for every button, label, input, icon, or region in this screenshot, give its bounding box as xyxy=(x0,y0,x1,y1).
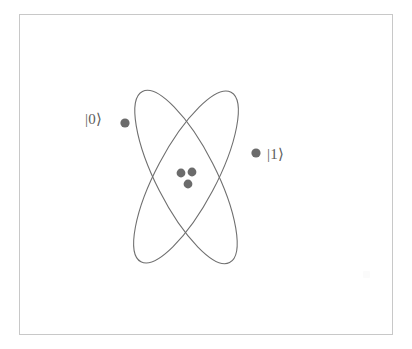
electron-dot-ket0 xyxy=(120,118,129,127)
figure-root: |0⟩ |1⟩ xyxy=(0,0,412,349)
nucleus-dot-2 xyxy=(188,168,197,177)
orbital-ellipse-left xyxy=(116,78,257,276)
nucleus-dot-1 xyxy=(177,169,186,178)
electron-dot-ket1 xyxy=(251,148,260,157)
nucleus-dot-3 xyxy=(184,180,193,189)
ket-zero-label: |0⟩ xyxy=(85,110,102,128)
faint-artifact-mark xyxy=(363,271,370,278)
ket-one-label: |1⟩ xyxy=(267,145,284,163)
orbital-diagram-svg xyxy=(0,0,412,349)
nucleus-dots-group xyxy=(177,168,197,189)
orbital-ellipse-right xyxy=(114,78,257,276)
electron-dots-group xyxy=(120,118,260,157)
orbital-ellipses-group xyxy=(114,78,257,276)
